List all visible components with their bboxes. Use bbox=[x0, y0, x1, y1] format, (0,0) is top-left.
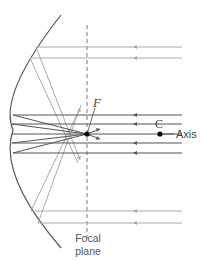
concave-mirror-diagram bbox=[0, 0, 204, 262]
focal-plane-label-line1: Focal bbox=[73, 232, 103, 245]
center-of-curvature-label: C bbox=[155, 118, 163, 131]
mirror-arc bbox=[10, 15, 61, 248]
axis-label: Axis bbox=[176, 128, 197, 141]
focal-plane-label: Focal plane bbox=[73, 232, 103, 258]
focal-point bbox=[84, 131, 89, 136]
focal-plane-label-line2: plane bbox=[73, 245, 103, 258]
focal-point-label: F bbox=[93, 96, 101, 109]
center-of-curvature-point bbox=[157, 131, 162, 136]
focal-label-leader bbox=[87, 108, 95, 134]
